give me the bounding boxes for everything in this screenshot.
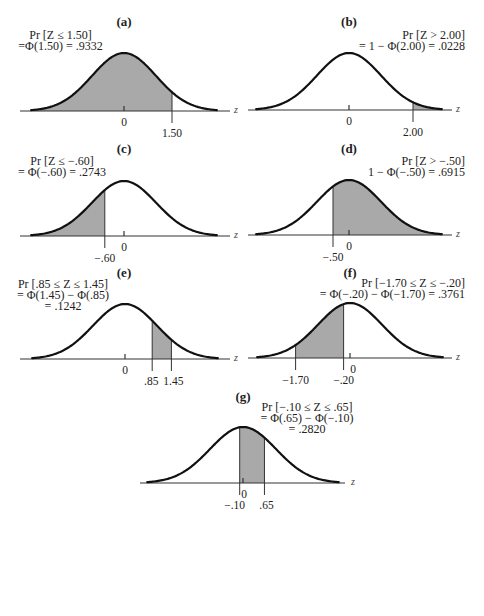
probability-annotation-d: Pr [Z > −.50] 1 − Φ(−.50) = .6915 — [355, 156, 465, 178]
axis-label-z-d: z — [456, 228, 460, 239]
probability-annotation-a: Pr [Z ≤ 1.50] =Φ(1.50) = .9332 — [8, 30, 113, 52]
shaded-area-f — [296, 304, 344, 358]
probability-annotation-f: Pr [−1.70 ≤ Z ≤ −.20] = Φ(−.20) − Φ(−1.7… — [300, 278, 465, 300]
tick-label-a-0: 0 — [121, 116, 127, 128]
normal-curve-b — [256, 53, 442, 109]
normal-probability-figure: (a)Pr [Z ≤ 1.50] =Φ(1.50) = .933201.50z(… — [0, 0, 484, 616]
tick-label-e-2: 1.45 — [163, 375, 183, 387]
axis-label-z-b: z — [456, 103, 460, 114]
tick-label-a-1: 1.50 — [162, 127, 182, 139]
tick-label-d-1: −.50 — [323, 251, 344, 263]
probability-annotation-c: Pr [Z ≤ −.60] = Φ(−.60) = .2743 — [8, 156, 116, 178]
tick-label-d-0: 0 — [346, 240, 352, 252]
tick-label-f-2: −.20 — [333, 374, 354, 386]
probability-annotation-e: Pr [.85 ≤ Z ≤ 1.45] = Φ(1.45) − Φ(.85) =… — [8, 279, 118, 312]
panel-label-b: (b) — [341, 14, 357, 30]
shaded-area-e — [152, 321, 171, 359]
panel-label-d: (d) — [341, 141, 357, 157]
axis-label-z-c: z — [234, 229, 238, 240]
tick-label-e-0: 0 — [122, 364, 128, 376]
shaded-area-a — [31, 53, 172, 111]
tick-label-e-1: .85 — [144, 375, 158, 387]
panel-label-c: (c) — [117, 141, 131, 157]
normal-curve-c — [31, 181, 217, 235]
panel-label-e: (e) — [117, 265, 131, 281]
panel-label-a: (a) — [116, 14, 131, 30]
axis-label-z-a: z — [234, 104, 238, 115]
tick-label-c-0: 0 — [121, 241, 127, 253]
tick-label-g-2: .65 — [259, 499, 273, 511]
tick-label-c-1: −.60 — [94, 252, 115, 264]
tick-label-b-0: 0 — [346, 115, 352, 127]
probability-annotation-g: Pr [−.10 ≤ Z ≤ .65] = Φ(.65) − Φ(−.10) =… — [252, 402, 362, 435]
probability-annotation-b: Pr [Z > 2.00] = 1 − Φ(2.00) = .0228 — [340, 30, 465, 52]
tick-label-g-1: −.10 — [224, 499, 245, 511]
axis-label-z-f: z — [456, 351, 460, 362]
shaded-area-c — [31, 190, 105, 236]
tick-label-f-1: −1.70 — [282, 374, 309, 386]
normal-curve-f — [257, 303, 443, 357]
axis-label-z-g: z — [351, 476, 355, 487]
tick-label-b-1: 2.00 — [403, 126, 423, 138]
axis-label-z-e: z — [234, 352, 238, 363]
panel-label-g: (g) — [235, 389, 250, 405]
